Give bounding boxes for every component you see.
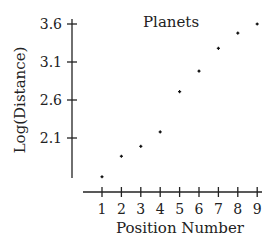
y-axis-label: Log(Distance) — [11, 47, 29, 154]
y-tick-label: 3.1 — [40, 54, 62, 70]
data-point — [197, 70, 200, 73]
x-tick-label: 8 — [233, 201, 242, 217]
x-tick-label: 3 — [136, 201, 145, 217]
x-axis: 123456789 — [83, 187, 262, 217]
x-tick-label: 1 — [98, 201, 107, 217]
data-point — [217, 47, 220, 50]
data-point — [178, 90, 181, 93]
x-tick-label: 6 — [195, 201, 204, 217]
chart-title: Planets — [143, 13, 199, 31]
x-tick-label: 2 — [117, 201, 126, 217]
x-tick-label: 9 — [253, 201, 262, 217]
x-tick-label: 5 — [175, 201, 184, 217]
data-point — [159, 130, 162, 133]
x-tick-label: 4 — [156, 201, 165, 217]
y-tick-label: 2.6 — [40, 92, 62, 108]
scatter-chart: Planets 2.12.63.13.6 123456789 Position … — [0, 0, 273, 246]
data-point — [256, 22, 259, 25]
y-tick-label: 2.1 — [40, 130, 62, 146]
x-tick-label: 7 — [214, 201, 223, 217]
data-points — [100, 22, 258, 178]
data-point — [120, 155, 123, 158]
y-axis: 2.12.63.13.6 — [40, 16, 77, 178]
x-axis-label: Position Number — [116, 219, 245, 237]
data-point — [236, 32, 239, 35]
data-point — [100, 175, 103, 178]
y-tick-label: 3.6 — [40, 16, 62, 32]
data-point — [139, 145, 142, 148]
